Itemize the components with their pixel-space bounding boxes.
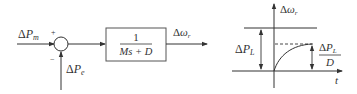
feedback-label: ΔPe [66,62,85,77]
steady-state-label: ΔPL D [319,41,341,68]
transfer-numerator: 1 [133,31,139,43]
plus-sign: + [51,28,56,37]
y-axis-label: Δωr [280,3,298,17]
block-diagram: ΔPm + − ΔPe 1 Ms + D Δωr [17,26,207,90]
input-label: ΔPm [18,27,39,42]
x-axis-label: t [335,74,339,86]
transfer-denominator: Ms + D [119,46,153,57]
output-label: Δωr [173,26,191,40]
summing-junction [54,37,68,51]
minus-sign: − [50,55,55,64]
svg-text:ΔPL: ΔPL [319,41,337,55]
svg-text:D: D [325,56,334,68]
response-curve [274,44,312,71]
response-plot: Δωr t ΔPL ΔPL D [232,3,342,88]
swing-equation-diagram: ΔPm + − ΔPe 1 Ms + D Δωr Δωr t ΔPL [0,0,357,94]
step-magnitude-label: ΔPL [235,42,255,57]
